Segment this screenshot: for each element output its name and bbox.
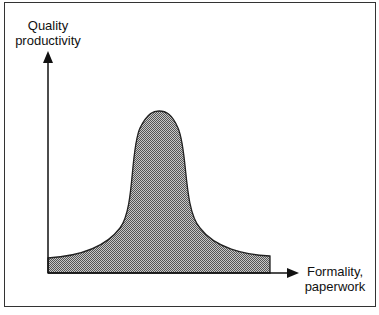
x-axis-arrow-icon xyxy=(287,268,299,278)
curve-area xyxy=(48,111,270,273)
y-axis-label: Quality productivity xyxy=(10,18,86,48)
x-axis-label: Formality, paperwork xyxy=(300,264,370,294)
y-axis-label-line1: Quality xyxy=(10,18,86,33)
y-axis-arrow-icon xyxy=(43,51,53,63)
x-axis-label-line1: Formality, xyxy=(300,264,370,279)
y-axis-label-line2: productivity xyxy=(10,33,86,48)
x-axis-label-line2: paperwork xyxy=(300,279,370,294)
